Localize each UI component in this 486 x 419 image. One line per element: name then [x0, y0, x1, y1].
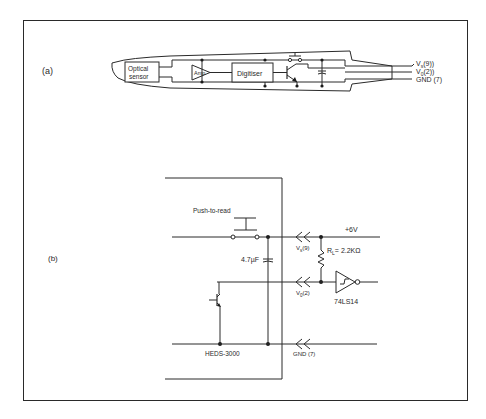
panel-a-label: (a)	[42, 66, 53, 76]
pin-vo-label-b: V0(2)	[296, 290, 310, 298]
pin-vs-label-b: Vs(9)	[296, 245, 310, 253]
push-to-read-label: Push-to-read	[193, 207, 231, 214]
optical-sensor-label-2: sensor	[129, 73, 149, 80]
buffer-label: 74LS14	[334, 298, 358, 305]
capacitor-label: 4.7µF	[241, 256, 259, 264]
resistor-label: RL= 2.2KΩ	[327, 247, 361, 256]
module-label: HEDS-3000	[205, 350, 240, 357]
panel-a: (a) Optical sensor Amp Digitiser	[42, 51, 442, 91]
circuit-diagram: (a) Optical sensor Amp Digitiser	[0, 0, 486, 419]
supply-label: +6V	[345, 226, 358, 233]
schmitt-inverter-symbol	[336, 271, 355, 293]
digitiser-label: Digitiser	[237, 70, 263, 78]
pin-gnd-label-a: GND (7)	[416, 76, 442, 84]
panel-b-label: (b)	[48, 254, 58, 263]
pin-gnd-label-b: GND (7)	[293, 351, 315, 357]
optical-sensor-label-1: Optical	[128, 65, 149, 73]
amp-label: Amp	[194, 70, 205, 76]
panel-b: (b) Push-to-read 4.7µF Vs(9) +6V RL= 2.2…	[48, 178, 380, 379]
